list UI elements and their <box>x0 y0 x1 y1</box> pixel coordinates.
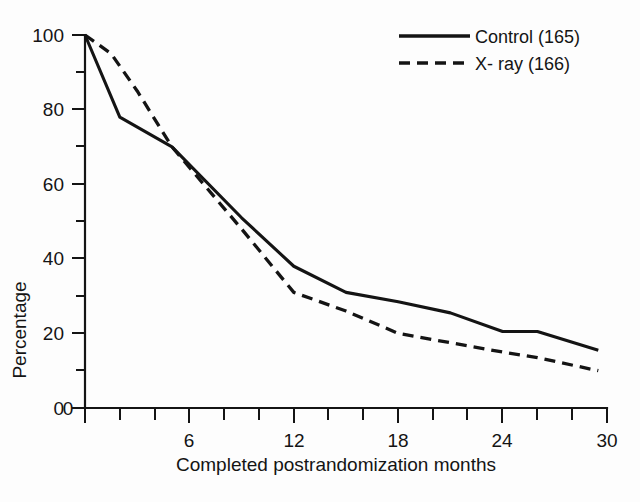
axis-group <box>85 35 607 408</box>
series-line-control <box>85 35 598 350</box>
legend-label-control: Control (165) <box>475 27 580 47</box>
series-line-xray <box>85 35 598 371</box>
y-tick-labels: 100 80 60 40 20 0 <box>32 25 64 419</box>
y-tick-marks <box>72 35 85 408</box>
y-axis-title: Percentage <box>9 281 30 378</box>
legend: Control (165) X- ray (166) <box>399 27 580 74</box>
x-tick-marks <box>85 408 607 423</box>
x-tick-label-24: 24 <box>491 430 513 451</box>
x-tick-label-30: 30 <box>596 430 617 451</box>
y-tick-label-20: 20 <box>43 323 64 344</box>
x-tick-labels: 0 6 12 18 24 30 <box>63 398 618 451</box>
chart-canvas: 100 80 60 40 20 0 0 <box>0 0 640 502</box>
y-tick-label-40: 40 <box>43 248 64 269</box>
x-tick-label-0: 0 <box>63 398 74 419</box>
survival-curve-figure: 100 80 60 40 20 0 0 <box>0 0 640 502</box>
x-axis-title: Completed postrandomization months <box>176 454 496 475</box>
legend-label-xray: X- ray (166) <box>475 54 570 74</box>
x-tick-label-12: 12 <box>283 430 304 451</box>
y-tick-label-80: 80 <box>43 99 64 120</box>
y-tick-label-100: 100 <box>32 25 64 46</box>
series-group <box>85 35 598 371</box>
x-tick-label-18: 18 <box>387 430 408 451</box>
y-tick-label-60: 60 <box>43 174 64 195</box>
x-tick-label-6: 6 <box>184 430 195 451</box>
